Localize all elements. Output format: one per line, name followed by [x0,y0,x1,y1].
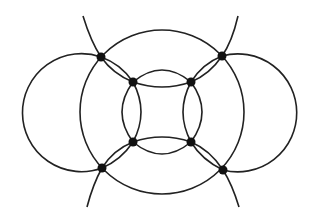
lens-top-right [191,56,222,82]
node-inner-top-right [187,78,196,87]
inner-right-inner [183,82,191,142]
inner-left-outer [122,82,133,142]
node-inner-bottom-right [187,138,196,147]
edges [22,16,296,207]
inner-bottom-upper [133,137,191,142]
lens-bottom-right [191,142,223,170]
lens-top-left [101,57,133,82]
node-inner-bottom-left [129,138,138,147]
node-outer-bottom-right [219,166,228,175]
node-outer-top-right [218,52,227,61]
node-inner-top-left [129,78,138,87]
inner-bottom-lower [133,142,191,154]
inner-right-outer [191,82,202,142]
lens-bottom-left [102,142,133,168]
inner-left-inner [133,82,141,142]
node-outer-top-left [97,53,106,62]
circle-graph-diagram [0,0,323,223]
inner-top-lower [133,82,191,87]
inner-top-upper [133,70,191,82]
node-outer-bottom-left [98,164,107,173]
